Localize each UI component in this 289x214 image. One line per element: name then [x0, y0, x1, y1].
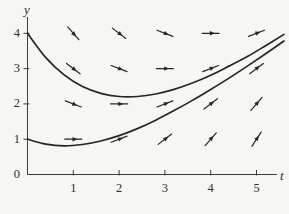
x-tick-label: 1 [63, 181, 83, 195]
slope-arrowhead [73, 137, 78, 141]
y-tick-label: 4 [0, 26, 20, 40]
x-tick-label: 2 [109, 181, 129, 195]
x-tick-label: 5 [247, 181, 267, 195]
slope-arrowhead [163, 31, 168, 35]
slope-arrowhead [163, 102, 168, 106]
slope-arrowhead [209, 67, 214, 71]
t-axis-label: t [280, 169, 289, 182]
y-tick-label: 0 [0, 167, 20, 181]
slope-arrowhead [118, 102, 123, 106]
direction-field-figure: y t 1234501234 [0, 0, 289, 214]
y-tick-label: 3 [0, 61, 20, 75]
slope-arrowhead [255, 32, 260, 36]
slope-arrowhead [118, 66, 123, 70]
x-tick-label: 4 [201, 181, 221, 195]
x-tick-label: 3 [155, 181, 175, 195]
slope-arrowhead [72, 102, 77, 106]
slope-arrowhead [118, 137, 123, 141]
y-tick-label: 1 [0, 132, 20, 146]
y-tick-label: 2 [0, 96, 20, 110]
y-axis-label: y [17, 3, 37, 16]
slope-arrowhead [164, 66, 169, 70]
slope-arrowhead [210, 31, 215, 35]
solution-curve-upper [28, 33, 284, 97]
